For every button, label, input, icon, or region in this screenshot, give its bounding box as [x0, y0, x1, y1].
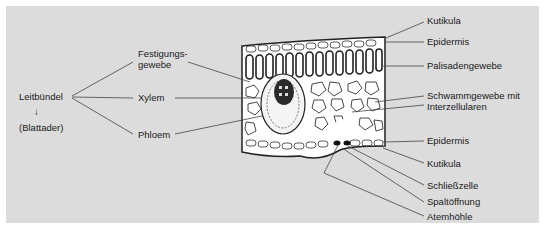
- festigungsgewebe-label-line2: gewebe: [138, 59, 171, 71]
- schliesszelle-label: Schließzelle: [427, 180, 478, 192]
- phloem-label: Phloem: [138, 129, 170, 141]
- epidermis-bottom-label: Epidermis: [427, 135, 469, 147]
- palisadengewebe-label: Palisadengewebe: [427, 60, 502, 72]
- epidermis-top-label: Epidermis: [427, 36, 469, 48]
- blattader-label: (Blattader): [19, 122, 63, 134]
- down-arrow-icon: ↓: [34, 106, 39, 118]
- kutikula-top-label: Kutikula: [427, 15, 461, 27]
- xylem-label: Xylem: [138, 92, 164, 104]
- leitbuendel-label: Leitbündel: [19, 91, 63, 103]
- atemhoehle-label: Atemhöhle: [427, 211, 472, 223]
- kutikula-bottom-label: Kutikula: [427, 158, 461, 170]
- schwammgewebe-label-line2: Interzellularen: [427, 101, 487, 113]
- spaltoeffnung-label: Spaltöffnung: [427, 196, 480, 208]
